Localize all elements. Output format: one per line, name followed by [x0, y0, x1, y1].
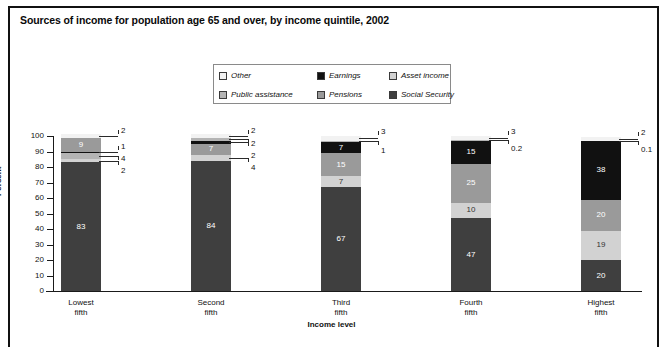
bar-segment-value: 83 — [77, 223, 86, 231]
callout-tick — [378, 131, 379, 135]
callout-leader-line — [229, 139, 248, 140]
legend-item-asset[interactable]: Asset income — [389, 66, 457, 85]
bar-segment-value: 38 — [597, 166, 606, 174]
callout-leader-line — [99, 136, 118, 137]
bar-segment[interactable]: 25 — [451, 164, 491, 203]
callout-tick — [638, 132, 639, 136]
bar-segment[interactable] — [191, 134, 231, 137]
bar-segment-value: 10 — [467, 206, 476, 214]
bar-column[interactable]: 20192038 — [581, 136, 621, 291]
callout-value-label: 3 — [511, 127, 515, 136]
callout-leader-line — [229, 142, 248, 143]
bar-segment[interactable] — [61, 134, 101, 137]
bar-segment[interactable]: 20 — [581, 200, 621, 231]
x-category-line: Lowest — [41, 298, 121, 308]
x-category-line: Third — [301, 298, 381, 308]
bar-segment[interactable]: 19 — [581, 231, 621, 260]
bar-segment[interactable] — [61, 153, 101, 159]
bar-segment[interactable]: 20 — [581, 260, 621, 291]
bar-segment[interactable] — [191, 141, 231, 144]
bar-segment-value: 20 — [597, 272, 606, 280]
x-category-line: fifth — [171, 308, 251, 318]
bar-segment[interactable]: 67 — [321, 187, 361, 291]
callout-value-label: 1 — [121, 142, 125, 151]
bar-segment-value: 7 — [209, 145, 213, 153]
bar-column[interactable]: 677157 — [321, 136, 361, 291]
callout-value-label: 0.2 — [511, 144, 522, 153]
plot-area: 8398476771574710251520192038 — [54, 136, 634, 291]
bar-segment[interactable] — [61, 152, 101, 154]
callout-tick — [638, 141, 639, 145]
x-category-line: fifth — [561, 308, 641, 318]
callout-leader-line — [359, 141, 378, 142]
x-category-line: fifth — [431, 308, 511, 318]
callout-leader-line — [359, 138, 378, 139]
callout-leader-line — [229, 136, 248, 137]
frame-border-top — [8, 6, 659, 8]
y-tick-label: 20 — [20, 255, 44, 264]
bar-segment[interactable] — [191, 155, 231, 161]
callout-tick — [378, 141, 379, 145]
bar-segment[interactable]: 84 — [191, 161, 231, 291]
callout-value-label: 2 — [251, 126, 255, 135]
y-tick-label: 100 — [20, 131, 44, 140]
bar-segment[interactable]: 83 — [61, 162, 101, 291]
legend-swatch-asset-icon — [389, 72, 397, 80]
bar-segment[interactable]: 38 — [581, 141, 621, 200]
callout-value-label: 2 — [121, 166, 125, 175]
bar-segment[interactable]: 47 — [451, 218, 491, 291]
bar-segment-value: 67 — [337, 235, 346, 243]
legend-item-social[interactable]: Social Security — [389, 85, 457, 104]
callout-tick — [248, 130, 249, 134]
y-tick-label: 60 — [20, 193, 44, 202]
y-tick-label: 10 — [20, 271, 44, 280]
bar-segment[interactable]: 9 — [61, 138, 101, 152]
y-tick-label: 40 — [20, 224, 44, 233]
bar-segment-value: 47 — [467, 251, 476, 259]
legend-item-other[interactable]: Other — [219, 66, 317, 85]
bar-segment-value: 84 — [207, 222, 216, 230]
bar-segment[interactable]: 7 — [321, 142, 361, 153]
bar-segment[interactable]: 15 — [451, 141, 491, 164]
bar-segment[interactable] — [321, 136, 361, 141]
callout-leader-line — [229, 158, 248, 159]
callout-value-label: 2 — [641, 128, 645, 137]
bar-segment[interactable]: 10 — [451, 203, 491, 219]
callout-value-label: 4 — [251, 163, 255, 172]
bar-segment[interactable]: 7 — [321, 176, 361, 187]
bar-segment-value: 25 — [467, 179, 476, 187]
bar-segment[interactable] — [61, 159, 101, 162]
callout-leader-line — [99, 156, 118, 157]
y-tick-mark — [47, 229, 53, 230]
legend-item-earnings[interactable]: Earnings — [317, 66, 389, 85]
y-tick-label: 30 — [20, 240, 44, 249]
callout-value-label: 1 — [381, 146, 385, 155]
callout-tick — [118, 146, 119, 150]
bar-column[interactable]: 847 — [191, 136, 231, 291]
bar-segment[interactable] — [191, 138, 231, 141]
bar-segment[interactable]: 7 — [191, 144, 231, 155]
legend-label: Public assistance — [231, 90, 293, 99]
bar-column[interactable]: 47102515 — [451, 136, 491, 291]
legend-swatch-earnings-icon — [317, 72, 325, 80]
x-category-label: Secondfifth — [171, 298, 251, 318]
x-category-line: Fourth — [431, 298, 511, 308]
legend-item-pensions[interactable]: Pensions — [317, 85, 389, 104]
bar-segment-value: 7 — [339, 178, 343, 186]
y-tick-mark — [47, 214, 53, 215]
bar-segment[interactable] — [321, 141, 361, 143]
legend-label: Pensions — [329, 90, 362, 99]
bar-segment[interactable] — [451, 136, 491, 141]
bar-segment[interactable]: 15 — [321, 153, 361, 176]
y-tick-label: 0 — [20, 286, 44, 295]
y-tick-mark — [47, 245, 53, 246]
bar-column[interactable]: 839 — [61, 136, 101, 291]
bar-segment[interactable] — [581, 137, 621, 140]
x-category-label: Highestfifth — [561, 298, 641, 318]
legend-item-public[interactable]: Public assistance — [219, 85, 317, 104]
callout-leader-line — [489, 138, 508, 139]
y-tick-mark — [47, 183, 53, 184]
callout-tick — [248, 142, 249, 146]
callout-tick — [118, 156, 119, 160]
y-tick-mark — [47, 152, 53, 153]
